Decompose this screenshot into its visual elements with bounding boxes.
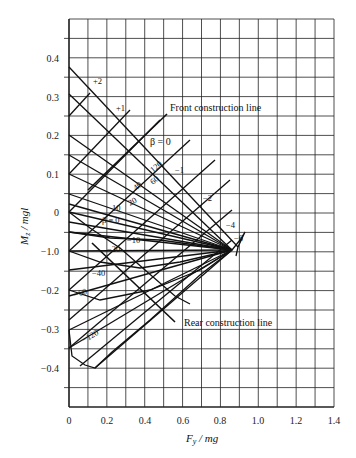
steer-label: −4 [226, 220, 236, 230]
chart: 0 0.2 0.4 0.6 0.8 1.0 1.2 1.4 0.4 0.3 0.… [0, 0, 356, 458]
beta-label: −60 [72, 286, 88, 300]
x-tick-label: 1.2 [290, 415, 303, 426]
beta-label: 60 [148, 173, 161, 186]
grid [64, 19, 334, 407]
y-axis-ticks: 0.4 0.3 0.2 0.1 0 −1.0 −0.2 −0.3 −0.4 [41, 53, 59, 374]
steer-label: −1 [175, 165, 184, 175]
front-construction-label: Front construction line [170, 102, 262, 113]
beta-label: −40 [92, 268, 105, 278]
rear-construction-label: Rear construction line [184, 317, 273, 328]
x-tick-label: 1.4 [328, 415, 341, 426]
y-tick-label: −1.0 [41, 246, 59, 257]
y-tick-label: 0.2 [47, 130, 60, 141]
y-tick-label: 0.1 [47, 169, 60, 180]
y-tick-label: −0.4 [41, 363, 59, 374]
x-tick-label: 0.2 [101, 415, 114, 426]
steer-label: −2 [203, 193, 212, 203]
x-tick-label: 0.6 [177, 415, 190, 426]
beta-label: 10 [112, 203, 121, 213]
beta-label: β = 0 [150, 136, 171, 147]
y-tick-label: 0 [54, 207, 59, 218]
y-tick-label: 0.3 [47, 92, 60, 103]
beta-label: −120 [80, 327, 100, 344]
beta-label: −20 [107, 244, 120, 254]
x-axis-ticks: 0 0.2 0.4 0.6 0.8 1.0 1.2 1.4 [67, 415, 341, 426]
y-axis-title: Mz / mgl [18, 208, 32, 246]
beta-label: −10 [127, 235, 140, 245]
x-axis-title: Fy / mg [185, 432, 219, 446]
x-tick-label: 0 [67, 415, 72, 426]
steer-label: +2 [93, 76, 102, 86]
y-tick-label: −0.3 [41, 324, 59, 335]
x-tick-label: 1.0 [252, 415, 265, 426]
x-tick-label: 0.8 [214, 415, 227, 426]
y-tick-label: −0.2 [41, 285, 59, 296]
beta-label: β = 0 [102, 215, 120, 225]
steer-label: −6 [234, 233, 243, 243]
beta-label: 40 [131, 179, 144, 192]
steer-label: +1 [116, 103, 125, 113]
x-tick-label: 0.4 [139, 415, 152, 426]
y-tick-label: 0.4 [47, 53, 60, 64]
